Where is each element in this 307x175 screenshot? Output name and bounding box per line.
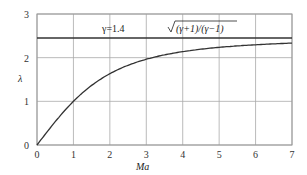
svg-text:(γ+1)/(γ−1): (γ+1)/(γ−1) bbox=[176, 23, 224, 35]
tick-labels: 012345670123 bbox=[24, 9, 295, 160]
plot-frame bbox=[37, 14, 292, 145]
x-tick-label: 2 bbox=[107, 149, 112, 160]
y-tick-label: 2 bbox=[24, 53, 29, 64]
y-axis-label: λ bbox=[17, 73, 23, 84]
x-tick-label: 4 bbox=[180, 149, 185, 160]
y-tick-label: 0 bbox=[24, 140, 29, 151]
lambda-curve bbox=[37, 43, 292, 145]
asymptote-annotation: (γ+1)/(γ−1) bbox=[168, 21, 237, 35]
x-tick-label: 7 bbox=[290, 149, 295, 160]
gamma-annotation: γ=1.4 bbox=[101, 23, 125, 34]
x-axis-label: Ma bbox=[135, 161, 149, 172]
x-tick-label: 1 bbox=[71, 149, 76, 160]
x-tick-label: 0 bbox=[35, 149, 40, 160]
y-tick-label: 3 bbox=[24, 9, 29, 20]
y-tick-label: 1 bbox=[24, 96, 29, 107]
grid bbox=[37, 14, 292, 145]
x-tick-label: 6 bbox=[253, 149, 258, 160]
x-tick-label: 3 bbox=[144, 149, 149, 160]
chart: 012345670123 γ=1.4 (γ+1)/(γ−1) λ Ma bbox=[0, 0, 307, 175]
x-tick-label: 5 bbox=[217, 149, 222, 160]
